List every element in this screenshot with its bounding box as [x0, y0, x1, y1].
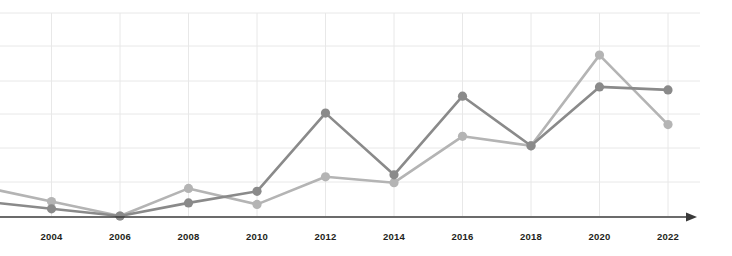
chart-canvas: 2004200620082010201220142016201820202022	[0, 0, 732, 256]
data-point	[663, 85, 672, 94]
x-axis-arrow-icon	[686, 213, 697, 222]
data-point	[389, 170, 398, 179]
x-tick-label: 2018	[520, 231, 542, 242]
series-line-1	[0, 87, 668, 216]
x-tick-label: 2012	[315, 231, 337, 242]
data-point	[595, 51, 604, 60]
x-tick-label: 2008	[178, 231, 200, 242]
data-point	[321, 172, 330, 181]
data-point	[595, 82, 604, 91]
x-tick-label: 2006	[109, 231, 131, 242]
data-point	[184, 198, 193, 207]
data-point	[252, 187, 261, 196]
x-tick-label: 2004	[41, 231, 63, 242]
data-point	[252, 200, 261, 209]
x-tick-label: 2022	[657, 231, 679, 242]
data-point	[458, 132, 467, 141]
data-point	[663, 120, 672, 129]
series-light	[0, 51, 673, 221]
data-point	[526, 141, 535, 150]
series-markers-2	[47, 51, 673, 221]
data-point	[115, 211, 124, 220]
data-point	[321, 109, 330, 118]
data-point	[184, 184, 193, 193]
series-dark	[0, 82, 673, 220]
data-point	[458, 92, 467, 101]
x-axis-tick-labels: 2004200620082010201220142016201820202022	[41, 231, 679, 242]
data-point	[389, 178, 398, 187]
x-tick-label: 2014	[383, 231, 405, 242]
line-chart: 2004200620082010201220142016201820202022	[0, 0, 732, 256]
x-tick-label: 2020	[589, 231, 611, 242]
x-tick-label: 2016	[452, 231, 474, 242]
data-point	[47, 204, 56, 213]
horizontal-gridlines	[0, 13, 700, 182]
x-tick-label: 2010	[246, 231, 268, 242]
series-line-2	[0, 55, 668, 216]
